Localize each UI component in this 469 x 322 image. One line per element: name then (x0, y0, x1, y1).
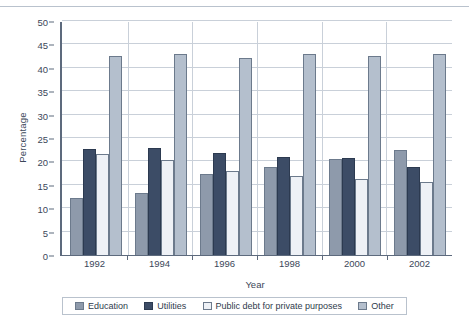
bar[interactable] (355, 179, 368, 255)
plot-area (60, 22, 452, 256)
y-tick-label: 0 (43, 251, 48, 262)
x-axis-title: Year (60, 279, 450, 290)
legend-swatch-icon (203, 302, 212, 310)
x-tick-label: 1994 (127, 258, 192, 274)
bar-chart: Percentage 05101520253035404550 19921994… (0, 0, 469, 322)
legend-item[interactable]: Education (75, 301, 128, 311)
x-axis-ticks: 199219941996199820002002 (62, 258, 452, 274)
y-tick-label: 5 (43, 227, 48, 238)
x-tick-label: 1992 (62, 258, 127, 274)
y-tick-label: 50 (37, 17, 48, 28)
y-tick-mark (49, 209, 54, 210)
legend-item[interactable]: Public debt for private purposes (203, 301, 343, 311)
bar-group (387, 22, 452, 255)
bar[interactable] (96, 154, 109, 255)
x-tick-label: 2002 (387, 258, 452, 274)
top-divider (0, 6, 469, 7)
bar[interactable] (407, 167, 420, 255)
legend-swatch-icon (75, 302, 84, 310)
bar-group (193, 22, 258, 255)
bar-group (258, 22, 323, 255)
bar[interactable] (264, 167, 277, 255)
y-tick-label: 45 (37, 40, 48, 51)
bar[interactable] (226, 171, 239, 255)
bar[interactable] (290, 176, 303, 255)
legend-label: Utilities (157, 301, 186, 311)
bar[interactable] (161, 160, 174, 255)
y-tick-mark (49, 92, 54, 93)
bar-group (323, 22, 388, 255)
y-tick-mark (49, 232, 54, 233)
bar[interactable] (174, 54, 187, 255)
legend-item[interactable]: Other (358, 301, 394, 311)
bar[interactable] (135, 193, 148, 255)
y-tick-label: 10 (37, 204, 48, 215)
y-tick-mark (49, 68, 54, 69)
legend-label: Education (88, 301, 128, 311)
y-tick-mark (49, 139, 54, 140)
bar[interactable] (239, 58, 252, 255)
bar-groups (64, 22, 452, 255)
bar[interactable] (394, 150, 407, 255)
y-axis-ticks: 05101520253035404550 (0, 22, 60, 256)
bar[interactable] (420, 182, 433, 255)
x-tick-label: 1996 (192, 258, 257, 274)
y-tick-mark (49, 256, 54, 257)
gridline (62, 20, 452, 21)
y-tick-mark (49, 22, 54, 23)
bar[interactable] (109, 56, 122, 255)
bar[interactable] (303, 54, 316, 255)
legend-swatch-icon (144, 302, 153, 310)
y-tick-mark (49, 162, 54, 163)
y-tick-label: 25 (37, 134, 48, 145)
y-tick-label: 35 (37, 87, 48, 98)
bar[interactable] (368, 56, 381, 255)
legend-label: Other (371, 301, 394, 311)
bar[interactable] (277, 157, 290, 255)
y-tick-mark (49, 185, 54, 186)
y-tick-mark (49, 45, 54, 46)
y-tick-mark (49, 115, 54, 116)
x-tick-label: 1998 (257, 258, 322, 274)
legend-label: Public debt for private purposes (216, 301, 343, 311)
bar[interactable] (83, 149, 96, 255)
legend-item[interactable]: Utilities (144, 301, 186, 311)
bar[interactable] (433, 54, 446, 255)
y-tick-label: 15 (37, 180, 48, 191)
bar[interactable] (213, 153, 226, 255)
x-tick-label: 2000 (322, 258, 387, 274)
bar-group (129, 22, 194, 255)
bar[interactable] (342, 158, 355, 255)
y-tick-label: 20 (37, 157, 48, 168)
y-tick-label: 40 (37, 63, 48, 74)
bar[interactable] (148, 148, 161, 255)
bar-group (64, 22, 129, 255)
legend-swatch-icon (358, 302, 367, 310)
chart-legend: EducationUtilitiesPublic debt for privat… (62, 297, 407, 315)
bar[interactable] (70, 198, 83, 255)
y-tick-label: 30 (37, 110, 48, 121)
bar[interactable] (200, 174, 213, 255)
bar[interactable] (329, 159, 342, 255)
